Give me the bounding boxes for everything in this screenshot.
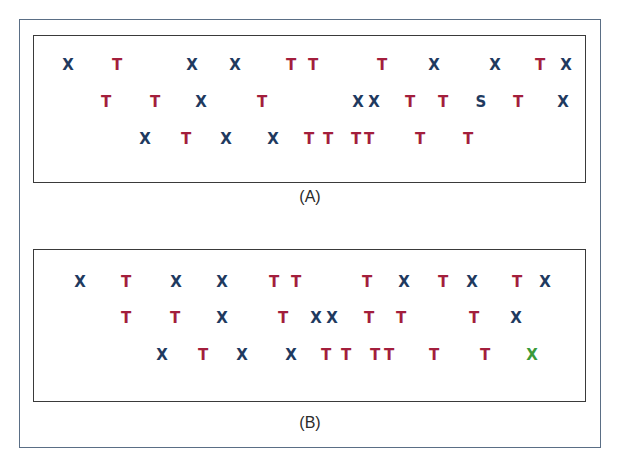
stimulus-letter-t: T bbox=[121, 275, 131, 290]
stimulus-letter-t: T bbox=[377, 58, 387, 73]
stimulus-letter-t: T bbox=[181, 132, 191, 147]
stimulus-letter-x: X bbox=[229, 58, 241, 73]
stimulus-letter-x: X bbox=[62, 58, 74, 73]
stimulus-letter-t: T bbox=[291, 275, 301, 290]
stimulus-letter-t: T bbox=[364, 311, 374, 326]
stimulus-letter-x: X bbox=[398, 275, 410, 290]
stimulus-letter-s: S bbox=[476, 95, 487, 110]
stimulus-letter-t: T bbox=[170, 311, 180, 326]
stimulus-letter-t: T bbox=[341, 348, 351, 363]
stimulus-letter-t: T bbox=[323, 132, 333, 147]
stimulus-letter-t: T bbox=[351, 132, 361, 147]
stimulus-letter-t: T bbox=[415, 132, 425, 147]
stimulus-letter-t: T bbox=[112, 58, 122, 73]
stimulus-letter-x: X bbox=[557, 95, 569, 110]
stimulus-letter-t: T bbox=[370, 348, 380, 363]
stimulus-letter-t: T bbox=[269, 275, 279, 290]
stimulus-letter-x: X bbox=[352, 95, 364, 110]
stimulus-letter-x: X bbox=[466, 275, 478, 290]
stimulus-letter-x: X bbox=[510, 311, 522, 326]
stimulus-letter-x: X bbox=[216, 275, 228, 290]
stimulus-letter-x: X bbox=[267, 132, 279, 147]
stimulus-letter-x: X bbox=[236, 348, 248, 363]
stimulus-letter-t: T bbox=[396, 311, 406, 326]
stimulus-letter-t: T bbox=[513, 95, 523, 110]
stimulus-letter-t: T bbox=[362, 275, 372, 290]
stimulus-letter-t: T bbox=[480, 348, 490, 363]
stimulus-letter-x: X bbox=[195, 95, 207, 110]
stimulus-letter-t: T bbox=[101, 95, 111, 110]
stimulus-letter-x-target: X bbox=[526, 348, 538, 363]
panel-a-caption: (A) bbox=[299, 189, 320, 205]
stimulus-letter-t: T bbox=[463, 132, 473, 147]
stimulus-letter-x: X bbox=[170, 275, 182, 290]
stimulus-letter-t: T bbox=[150, 95, 160, 110]
stimulus-letter-t: T bbox=[121, 311, 131, 326]
stimulus-letter-t: T bbox=[512, 275, 522, 290]
stimulus-letter-x: X bbox=[489, 58, 501, 73]
stimulus-letter-x: X bbox=[310, 311, 322, 326]
stimulus-letter-t: T bbox=[438, 95, 448, 110]
stimulus-letter-t: T bbox=[405, 95, 415, 110]
stimulus-letter-x: X bbox=[326, 311, 338, 326]
stimulus-letter-t: T bbox=[308, 58, 318, 73]
stimulus-letter-t: T bbox=[429, 348, 439, 363]
stimulus-letter-t: T bbox=[321, 348, 331, 363]
stimulus-letter-t: T bbox=[469, 311, 479, 326]
stimulus-letter-x: X bbox=[74, 275, 86, 290]
stimulus-letter-t: T bbox=[304, 132, 314, 147]
stimulus-letter-t: T bbox=[198, 348, 208, 363]
stimulus-letter-x: X bbox=[220, 132, 232, 147]
stimulus-letter-t: T bbox=[257, 95, 267, 110]
stimulus-letter-t: T bbox=[438, 275, 448, 290]
stimulus-letter-t: T bbox=[535, 58, 545, 73]
stimulus-letter-x: X bbox=[139, 132, 151, 147]
stimulus-letter-x: X bbox=[560, 58, 572, 73]
stimulus-letter-x: X bbox=[539, 275, 551, 290]
stimulus-letter-t: T bbox=[364, 132, 374, 147]
stimulus-letter-t: T bbox=[278, 311, 288, 326]
stimulus-letter-x: X bbox=[428, 58, 440, 73]
stimulus-letter-x: X bbox=[186, 58, 198, 73]
stimulus-letter-x: X bbox=[216, 311, 228, 326]
stimulus-letter-t: T bbox=[286, 58, 296, 73]
stimulus-letter-x: X bbox=[368, 95, 380, 110]
stimulus-letter-x: X bbox=[156, 348, 168, 363]
stimulus-letter-x: X bbox=[285, 348, 297, 363]
panel-b-caption: (B) bbox=[299, 415, 320, 431]
stimulus-letter-t: T bbox=[384, 348, 394, 363]
